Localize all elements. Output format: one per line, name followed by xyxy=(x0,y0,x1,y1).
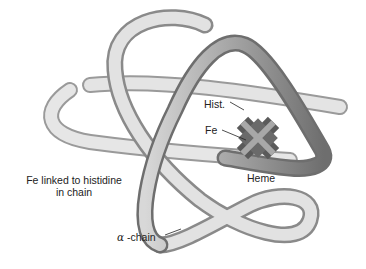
heme-label: Heme xyxy=(247,172,275,184)
diagram: Hist. Fe Heme Fe linked to histidine in … xyxy=(0,0,366,269)
hist-label: Hist. xyxy=(204,98,225,110)
alpha-chain-label: α -chain xyxy=(117,231,156,243)
caption-line-2: in chain xyxy=(14,186,134,198)
caption: Fe linked to histidine in chain xyxy=(14,174,134,198)
alpha-chain-tube xyxy=(0,0,366,269)
fe-label: Fe xyxy=(205,124,217,136)
chain-text: -chain xyxy=(124,231,156,243)
caption-line-1: Fe linked to histidine xyxy=(14,174,134,186)
